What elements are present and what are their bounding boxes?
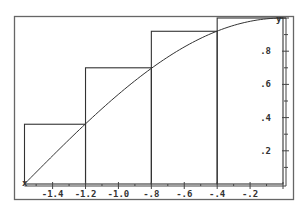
x-tick-label: -.4 bbox=[209, 189, 226, 199]
x-tick-label: -.8 bbox=[143, 189, 159, 199]
y-axis-label: y bbox=[276, 14, 282, 24]
y-tick-label: .4 bbox=[260, 113, 271, 123]
x-tick-label: -.2 bbox=[242, 189, 258, 199]
x-tick-label: -.6 bbox=[176, 189, 192, 199]
x-tick-label: -1.2 bbox=[75, 189, 97, 199]
riemann-rect-3 bbox=[151, 31, 217, 184]
riemann-rect-4 bbox=[217, 18, 283, 184]
y-tick-label: .2 bbox=[260, 146, 271, 156]
origin-marker: x bbox=[22, 178, 28, 188]
riemann-sum-chart: -1.4-1.2-1.0-.8-.6-.4-.2 .2.4.6.8 y x bbox=[0, 0, 308, 213]
riemann-rect-2 bbox=[86, 68, 152, 184]
x-tick-label: -1.0 bbox=[108, 189, 130, 199]
y-tick-label: .6 bbox=[260, 79, 271, 89]
outer-frame bbox=[15, 17, 294, 200]
cos-curve bbox=[25, 18, 284, 184]
x-axis bbox=[25, 182, 287, 189]
x-tick-labels: -1.4-1.2-1.0-.8-.6-.4-.2 bbox=[42, 189, 258, 199]
y-tick-label: .8 bbox=[260, 46, 271, 56]
riemann-rectangles bbox=[25, 18, 284, 184]
x-tick-label: -1.4 bbox=[42, 189, 64, 199]
y-tick-labels: .2.4.6.8 bbox=[260, 46, 271, 156]
